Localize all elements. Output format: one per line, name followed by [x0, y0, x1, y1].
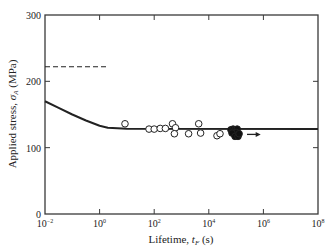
plot-border: [45, 15, 318, 214]
x-tick-label: 100: [93, 218, 106, 229]
open-data-point: [122, 120, 129, 127]
open-data-point: [171, 130, 178, 137]
open-data-point: [172, 124, 179, 131]
filled-data-point: [236, 130, 243, 137]
annotations: [247, 132, 261, 137]
y-tick-label: 300: [26, 10, 41, 21]
x-tick-label: 108: [312, 218, 325, 229]
open-data-point: [197, 130, 204, 137]
data-points: [122, 120, 243, 139]
x-axis-label: Lifetime, tF (s): [148, 233, 213, 247]
y-axis-label: Applied stress, σA (MPa): [6, 59, 20, 168]
fitted-curve: [45, 101, 318, 129]
open-data-point: [185, 130, 192, 137]
y-tick-label: 200: [26, 76, 41, 87]
arrow-right-icon: [256, 132, 261, 137]
x-tick-label: 104: [202, 218, 215, 229]
open-data-point: [195, 120, 202, 127]
x-tick-label: 10−2: [37, 218, 53, 229]
open-data-point: [162, 125, 169, 132]
stress-lifetime-chart: 0100200300 10−2100102104106108 Lifetime,…: [0, 0, 333, 251]
y-axis-ticks: 0100200300: [26, 10, 318, 220]
y-tick-label: 100: [26, 143, 41, 154]
x-tick-label: 102: [148, 218, 161, 229]
curve-layer: [45, 67, 318, 129]
plot-frame: [45, 15, 318, 214]
x-axis-ticks: 10−2100102104106108: [37, 15, 325, 229]
open-data-point: [217, 130, 224, 137]
x-tick-label: 106: [257, 218, 270, 229]
